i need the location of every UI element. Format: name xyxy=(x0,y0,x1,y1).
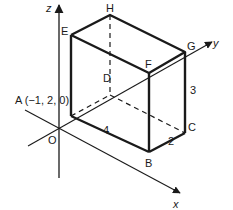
edge-BC xyxy=(149,133,185,152)
vertex-B-label: B xyxy=(145,157,152,169)
y-axis-label: y xyxy=(212,37,220,49)
vertex-G-label: G xyxy=(187,40,196,52)
edge-DC xyxy=(110,95,185,133)
cuboid-diagram: z y x O A (−1, 2, 0) B C D E F G H 4 2 3 xyxy=(0,0,233,210)
x-axis-label: x xyxy=(172,198,179,210)
visible-edges xyxy=(71,15,185,152)
z-axis-label: z xyxy=(45,2,52,14)
dimension-CG-label: 3 xyxy=(190,84,196,96)
vertex-A-label: A (−1, 2, 0) xyxy=(15,94,69,106)
dimension-AB-label: 4 xyxy=(103,124,109,136)
edge-AB xyxy=(71,116,149,152)
vertex-D-label: D xyxy=(103,72,111,84)
top-face xyxy=(71,15,185,73)
vertex-F-label: F xyxy=(145,58,152,70)
origin-label: O xyxy=(48,134,57,146)
vertex-C-label: C xyxy=(188,121,196,133)
dimension-BC-label: 2 xyxy=(168,135,174,147)
hidden-edges xyxy=(71,15,185,133)
edge-AD xyxy=(71,95,110,116)
vertex-E-label: E xyxy=(61,25,68,37)
vertex-H-label: H xyxy=(106,2,114,14)
x-axis xyxy=(25,110,180,193)
